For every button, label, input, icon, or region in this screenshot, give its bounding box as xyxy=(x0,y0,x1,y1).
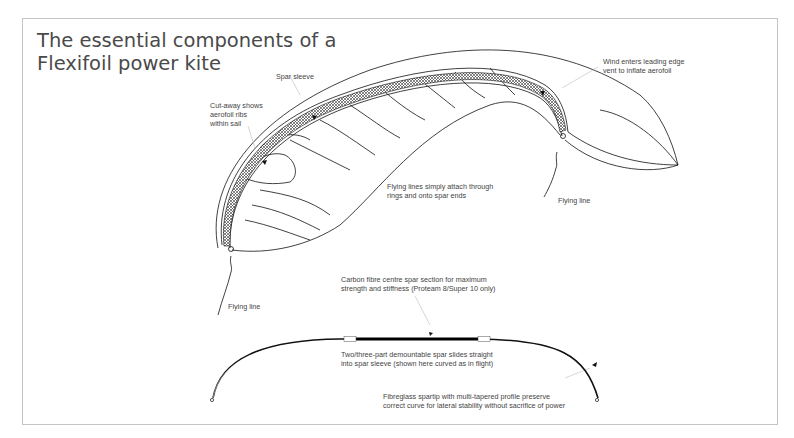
label-flying-line-right: Flying line xyxy=(558,196,590,205)
label-carbon-centre: Carbon fibre centre spar section for max… xyxy=(341,275,495,293)
label-flying-line-left: Flying line xyxy=(228,302,260,311)
label-wind-vent: Wind enters leading edge vent to inflate… xyxy=(603,57,685,75)
label-fibreglass-tip: Fibreglass spartip with multi-tapered pr… xyxy=(383,392,565,410)
label-flying-lines-attach: Flying lines simply attach through rings… xyxy=(387,182,493,200)
label-cutaway: Cut-away shows aerofoil ribs within sail xyxy=(210,101,263,128)
spar-sleeve xyxy=(223,73,566,246)
leader-lines xyxy=(248,67,598,378)
label-spar-sleeve: Spar sleeve xyxy=(276,72,314,81)
label-demountable: Two/three-part demountable spar slides s… xyxy=(341,350,493,368)
